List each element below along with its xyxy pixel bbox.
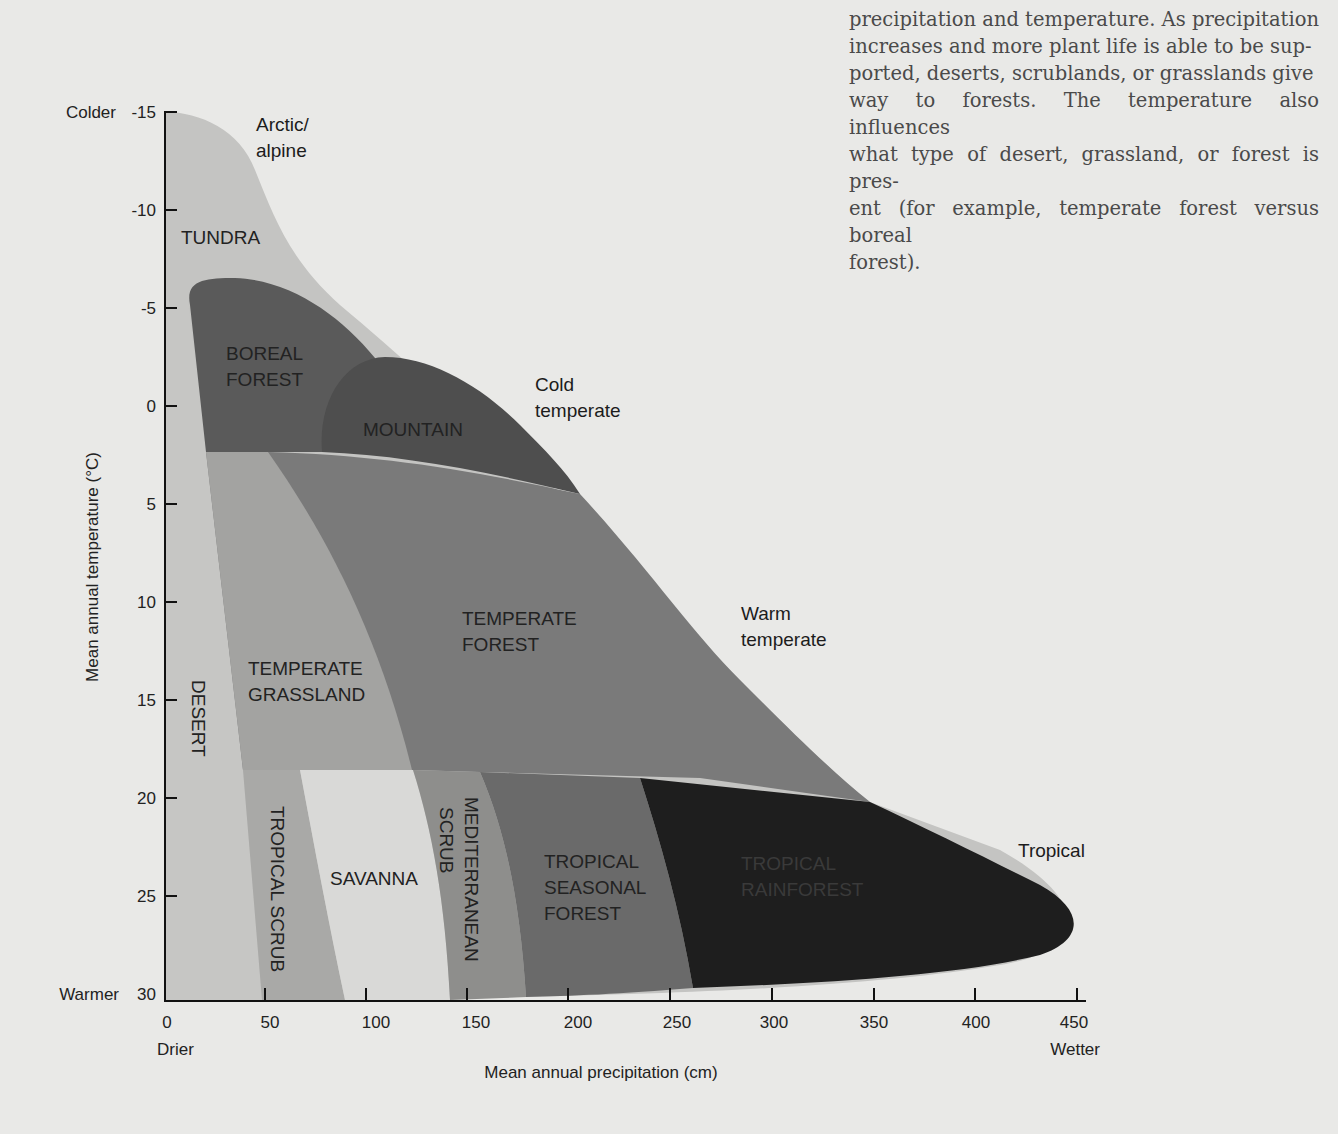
y-tick-label: 5 (147, 495, 156, 514)
y-tick-label: -5 (141, 299, 156, 318)
y-tick-label: -15 (131, 103, 156, 122)
biome-label-temperate-grassland: TEMPERATE (248, 658, 363, 679)
y-tick-label: 30 (137, 985, 156, 1004)
x-tick-label: 100 (362, 1013, 390, 1032)
biome-label-tropical-seasonal: FOREST (544, 903, 621, 924)
climate-label-arctic: alpine (256, 140, 307, 161)
x-tick-label: 0 (162, 1013, 171, 1032)
y-tick-label: -10 (131, 201, 156, 220)
drier-note: Drier (157, 1040, 194, 1059)
x-tick-label: 50 (261, 1013, 280, 1032)
y-axis-title: Mean annual temperature (°C) (83, 452, 102, 682)
biome-label-boreal: FOREST (226, 369, 303, 390)
biome-label-desert: DESERT (188, 680, 209, 757)
biome-label-temperate-grassland: GRASSLAND (248, 684, 365, 705)
biome-label-tropical-seasonal: SEASONAL (544, 877, 646, 898)
biome-label-mountain: MOUNTAIN (363, 419, 463, 440)
biome-chart: -15 -10 -5 0 5 10 15 20 25 30 Colder War… (0, 0, 1338, 1134)
y-tick-label: 10 (137, 593, 156, 612)
x-tick-label: 150 (462, 1013, 490, 1032)
x-tick-label: 250 (663, 1013, 691, 1032)
y-tick-label: 15 (137, 691, 156, 710)
biome-label-mediterranean-scrub: MEDITERRANEAN (461, 797, 482, 962)
y-tick-label: 25 (137, 887, 156, 906)
biome-label-tropical-seasonal: TROPICAL (544, 851, 639, 872)
warmer-note: Warmer (59, 985, 119, 1004)
x-tick-label: 400 (962, 1013, 990, 1032)
biome-label-savanna: SAVANNA (330, 868, 418, 889)
biome-label-temperate-forest: TEMPERATE (462, 608, 577, 629)
climate-label-arctic: Arctic/ (256, 114, 310, 135)
biome-label-tropical-scrub: TROPICAL SCRUB (267, 806, 288, 972)
x-axis-title: Mean annual precipitation (cm) (484, 1063, 717, 1082)
x-tick-label: 300 (760, 1013, 788, 1032)
climate-label-cold: Cold (535, 374, 574, 395)
x-tick-label: 200 (564, 1013, 592, 1032)
colder-note: Colder (66, 103, 116, 122)
biome-label-mediterranean-scrub: SCRUB (436, 807, 457, 874)
biome-label-boreal: BOREAL (226, 343, 303, 364)
x-tick-label: 350 (860, 1013, 888, 1032)
climate-label-tropical: Tropical (1018, 840, 1085, 861)
biome-label-tundra: TUNDRA (181, 227, 260, 248)
y-tick-label: 20 (137, 789, 156, 808)
y-tick-label: 0 (147, 397, 156, 416)
biome-label-tropical-rainforest: RAINFOREST (741, 879, 864, 900)
x-tick-label: 450 (1060, 1013, 1088, 1032)
climate-label-warm: temperate (741, 629, 827, 650)
biome-label-temperate-forest: FOREST (462, 634, 539, 655)
wetter-note: Wetter (1050, 1040, 1100, 1059)
climate-label-warm: Warm (741, 603, 791, 624)
biome-label-tropical-rainforest: TROPICAL (741, 853, 836, 874)
climate-label-cold: temperate (535, 400, 621, 421)
